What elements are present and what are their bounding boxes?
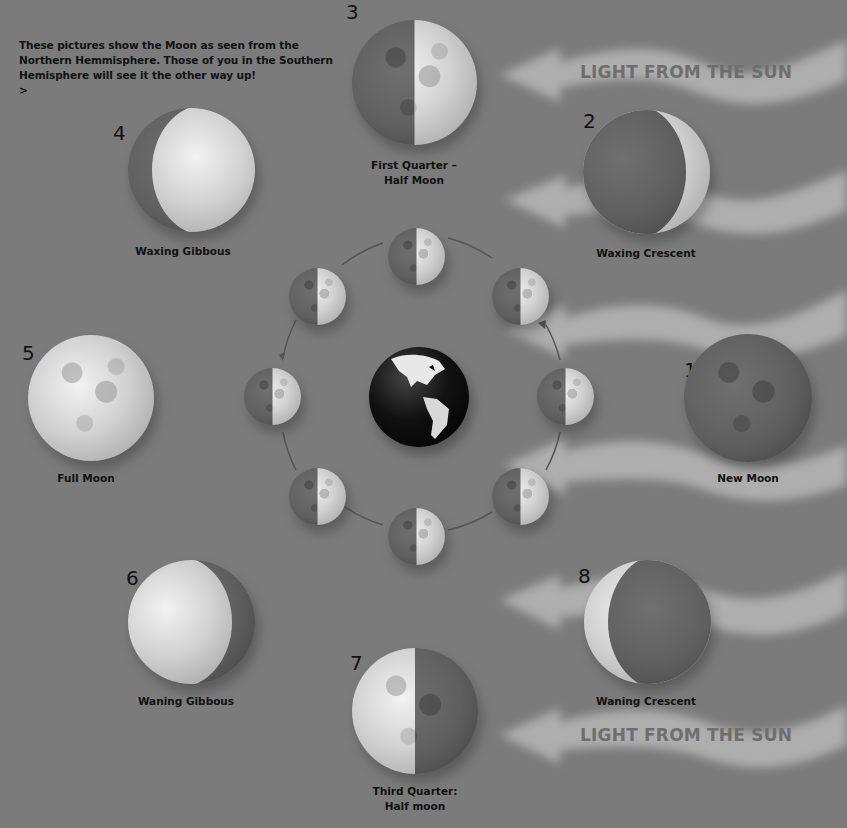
moon-first-quarter xyxy=(352,20,477,145)
orbit-moon-left xyxy=(244,368,301,425)
orbit-moon-top xyxy=(388,228,445,285)
phase-label-4: Waxing Gibbous xyxy=(133,244,233,259)
moon-waning-crescent xyxy=(584,560,711,684)
orbit-moon-bottom-right xyxy=(492,468,549,525)
phase-number-3: 3 xyxy=(346,2,359,22)
phase-label-3: First Quarter – Half Moon xyxy=(364,158,464,188)
moon-third-quarter xyxy=(352,648,478,774)
phase-label-7-line-2: Half moon xyxy=(365,799,465,814)
moon-full xyxy=(28,335,154,461)
phase-label-6: Waning Gibbous xyxy=(136,694,236,709)
moon-waxing-gibbous xyxy=(128,108,255,232)
earth-globe xyxy=(369,347,469,447)
orbit-moon-bottom xyxy=(388,508,445,565)
phase-label-8: Waning Crescent xyxy=(596,694,696,709)
phase-label-5: Full Moon xyxy=(36,471,136,486)
orbit-moon-bottom-left xyxy=(289,468,346,525)
phase-label-7: Third Quarter: Half moon xyxy=(365,784,465,814)
orbit-moon-right xyxy=(537,368,594,425)
phase-label-1: New Moon xyxy=(688,471,808,486)
phase-number-4: 4 xyxy=(113,123,126,143)
orbit-moon-top-right xyxy=(492,268,549,325)
moon-waning-gibbous xyxy=(128,560,255,684)
phase-label-2: Waxing Crescent xyxy=(596,246,696,261)
earth-continents-icon xyxy=(369,347,469,447)
phase-label-3-line-1: First Quarter – xyxy=(364,158,464,173)
phase-label-7-line-1: Third Quarter: xyxy=(365,784,465,799)
phase-label-3-line-2: Half Moon xyxy=(364,173,464,188)
moon-waxing-crescent xyxy=(583,110,710,234)
moon-new xyxy=(684,334,812,462)
orbit-moon-top-left xyxy=(289,268,346,325)
